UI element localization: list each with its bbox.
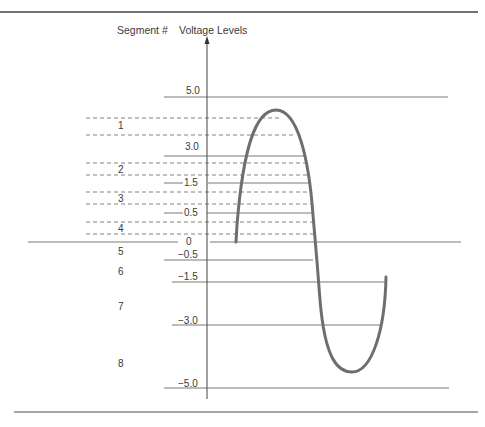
segment-label-5: 5 bbox=[118, 246, 124, 258]
segment-dashed-lines bbox=[86, 118, 314, 234]
voltage-label-neg-0-5: −0.5 bbox=[178, 249, 198, 261]
waveform-curve bbox=[236, 110, 386, 372]
voltage-label-neg-1-5: −1.5 bbox=[178, 271, 198, 283]
segment-label-8: 8 bbox=[118, 358, 124, 370]
voltage-label-3: 3.0 bbox=[185, 141, 199, 153]
voltage-label-5: 5.0 bbox=[186, 85, 200, 97]
axis-arrow-icon bbox=[205, 36, 210, 44]
voltage-level-lines bbox=[28, 97, 461, 388]
segment-header: Segment # bbox=[117, 24, 168, 36]
segment-label-2: 2 bbox=[118, 164, 124, 176]
segment-label-7: 7 bbox=[118, 301, 124, 313]
segment-label-3: 3 bbox=[118, 193, 124, 205]
segment-label-6: 6 bbox=[118, 266, 124, 278]
voltage-label-0-5: 0.5 bbox=[184, 207, 198, 219]
voltage-label-0: 0 bbox=[186, 236, 192, 248]
segment-label-4: 4 bbox=[118, 223, 124, 235]
voltage-header: Voltage Levels bbox=[179, 24, 247, 36]
voltage-label-neg-3: −3.0 bbox=[178, 315, 198, 327]
voltage-label-1-5: 1.5 bbox=[184, 177, 198, 189]
voltage-label-neg-5: −5.0 bbox=[178, 378, 198, 390]
segment-label-1: 1 bbox=[118, 120, 124, 132]
voltage-diagram bbox=[0, 0, 485, 427]
